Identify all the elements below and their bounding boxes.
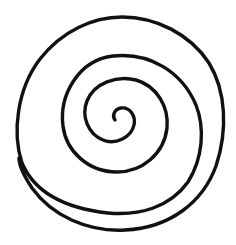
spiral-illustration: [0, 0, 236, 245]
spiral-stroke: [17, 17, 224, 230]
spiral-icon: [0, 0, 236, 245]
